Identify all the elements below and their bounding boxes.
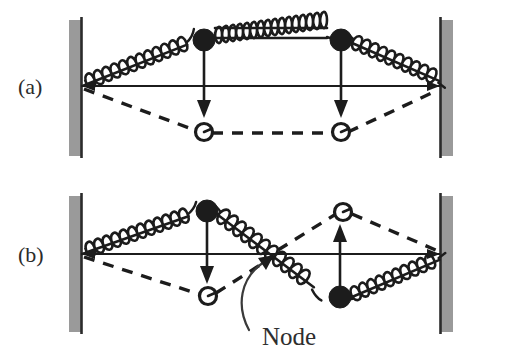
panel-a-wall-left <box>69 17 82 158</box>
node-label: Node <box>262 323 316 350</box>
panel-a-mass-2-displaced <box>333 124 350 141</box>
panel-a-mass-1-displaced <box>196 124 213 141</box>
panel-a-mass-1 <box>193 29 215 51</box>
panel-b-wall-right <box>441 193 454 334</box>
panel-b-wall-left <box>69 193 82 334</box>
panel-a-label: (a) <box>18 74 42 99</box>
panel-b-mass-2 <box>329 286 351 308</box>
panel-b-mass-2-displaced <box>335 204 352 221</box>
panel-b-mass-1-displaced <box>200 288 217 305</box>
panel-b-mass-1 <box>196 200 218 222</box>
normal-modes-figure: (a) <box>0 0 513 359</box>
panel-a-mass-2 <box>330 29 352 51</box>
panel-b-label: (b) <box>18 242 44 267</box>
figure-canvas: (a) <box>0 0 513 359</box>
panel-a-wall-right <box>441 17 454 158</box>
